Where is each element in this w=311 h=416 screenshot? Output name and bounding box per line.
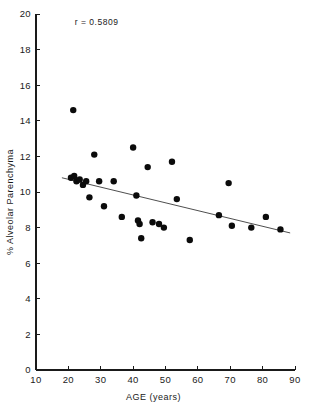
x-axis-title: AGE (years)	[126, 392, 181, 402]
data-point	[83, 178, 89, 184]
x-tick-label: 90	[289, 374, 300, 385]
x-tick-label: 30	[95, 374, 106, 385]
x-tick-label: 20	[63, 374, 74, 385]
data-point	[216, 212, 222, 218]
x-tick-label: 10	[30, 374, 41, 385]
data-point	[161, 224, 167, 230]
data-point	[96, 178, 102, 184]
x-tick-label: 70	[225, 374, 236, 385]
data-point	[86, 194, 92, 200]
x-tick-label: 60	[192, 374, 203, 385]
scatter-plot-figure: 02468101214161820102030405060708090AGE (…	[0, 0, 311, 416]
data-point	[229, 223, 235, 229]
y-tick-label: 6	[25, 258, 31, 269]
y-tick-label: 12	[20, 151, 31, 162]
x-tick-label: 80	[257, 374, 268, 385]
y-tick-label: 20	[20, 8, 31, 19]
y-tick-label: 8	[25, 222, 31, 233]
data-point	[77, 176, 83, 182]
x-tick-label: 50	[160, 374, 171, 385]
y-tick-label: 16	[20, 80, 31, 91]
correlation-annotation: r = 0.5809	[75, 17, 119, 27]
data-point	[277, 226, 283, 232]
data-point	[187, 237, 193, 243]
x-tick-label: 40	[127, 374, 138, 385]
data-point	[136, 221, 142, 227]
y-axis-title: % Alveolar Parenchyma	[5, 149, 15, 255]
data-point	[130, 144, 136, 150]
data-point	[144, 164, 150, 170]
data-point	[174, 196, 180, 202]
data-point	[263, 214, 269, 220]
y-tick-label: 10	[20, 186, 31, 197]
data-point	[91, 151, 97, 157]
y-tick-label: 2	[25, 329, 31, 340]
y-tick-label: 18	[20, 44, 31, 55]
data-point	[169, 159, 175, 165]
data-point	[119, 214, 125, 220]
y-tick-label: 4	[25, 293, 31, 304]
data-point	[70, 107, 76, 113]
data-point	[133, 192, 139, 198]
data-point	[225, 180, 231, 186]
y-tick-label: 14	[20, 115, 31, 126]
regression-line	[62, 178, 290, 233]
plot-canvas: 02468101214161820102030405060708090AGE (…	[0, 0, 311, 416]
data-point	[101, 203, 107, 209]
data-point	[138, 235, 144, 241]
data-point	[149, 219, 155, 225]
data-point	[248, 224, 254, 230]
data-point	[111, 178, 117, 184]
